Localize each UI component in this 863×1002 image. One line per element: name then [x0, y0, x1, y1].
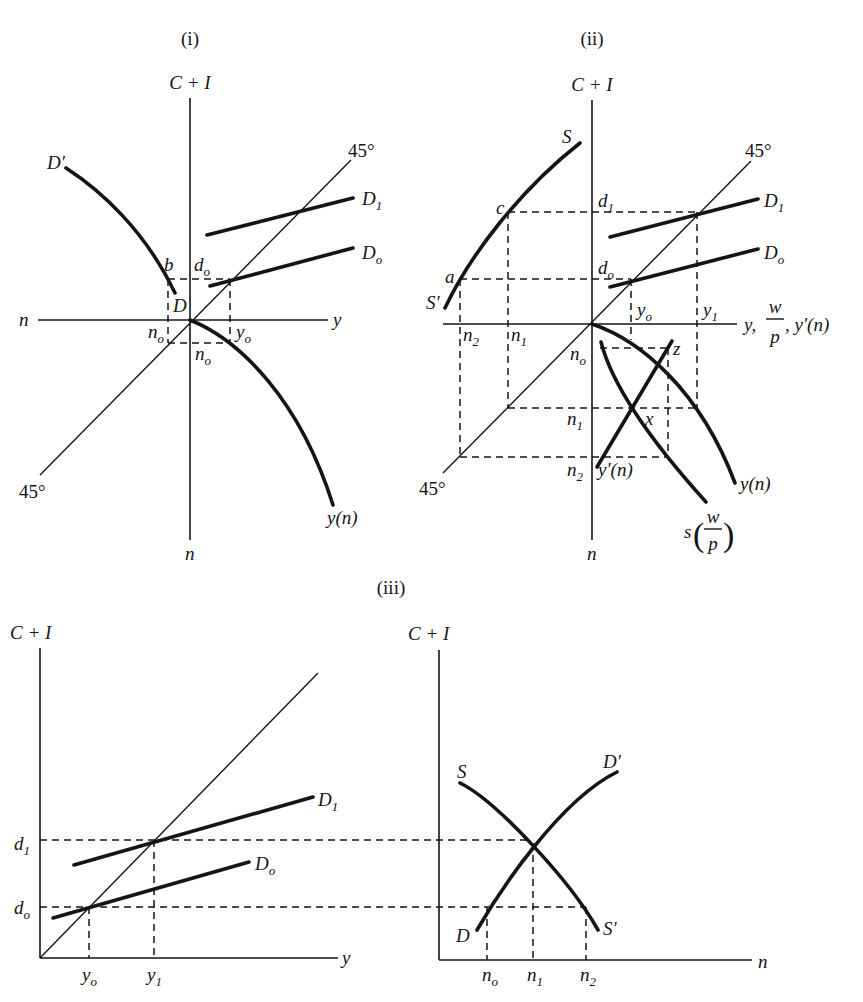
label-main: n [580, 964, 590, 985]
label-main: d [194, 254, 204, 275]
label-main: n [511, 324, 521, 345]
label-45-lower: 45° [419, 478, 446, 499]
label-main: y [635, 299, 646, 320]
panel-ii: (ii) C + I S 45° c d1 D1 Do do a S′ yo y… [419, 28, 829, 564]
curve-s [445, 143, 580, 308]
figure: (i) C + I 45° D′ D1 Do b do D n y no yo … [0, 0, 863, 1002]
axis-label-top: C + I [10, 622, 53, 643]
label-main: n [570, 343, 580, 364]
label-main: y [145, 964, 156, 985]
label-sub: 1 [608, 200, 615, 215]
label-sub: o [204, 264, 211, 279]
label-main: n [567, 459, 577, 480]
label-main: d [14, 897, 24, 918]
label-main: D [361, 188, 376, 209]
label-main: y [80, 964, 91, 985]
axis-label-left: n [19, 309, 29, 330]
label-45-upper: 45° [745, 140, 772, 161]
label-d1: D1 [361, 188, 382, 213]
label-sub: 1 [778, 200, 785, 215]
label-y-prime-of-n: y′(n) [596, 459, 633, 481]
axis-label-tail: , y′(n) [785, 314, 829, 336]
label-y-of-n: y(n) [325, 507, 358, 529]
label-sub: o [90, 974, 97, 989]
axis-label-right: y [331, 309, 342, 330]
label-s-prime: S′ [426, 292, 441, 313]
curve-d-prime [66, 168, 175, 293]
panel-i: (i) C + I 45° D′ D1 Do b do D n y no yo … [19, 28, 383, 564]
tick-d1: d1 [14, 833, 30, 858]
label-d0: Do [254, 853, 276, 878]
label-sub: o [376, 252, 383, 267]
label-s-of-w-over-p: s ( w p ) [684, 506, 734, 554]
label-s: S [562, 126, 572, 147]
panel-iii-right: C + I S D′ D S′ n no n1 n2 [408, 623, 768, 989]
fraction-denominator: p [768, 326, 780, 347]
axis-label-head: y, [742, 314, 756, 335]
label-sub: o [158, 331, 165, 346]
line-45-degree [40, 673, 318, 958]
curve-d1 [610, 199, 758, 237]
fraction-numerator: w [769, 296, 782, 317]
label-point-c: c [496, 197, 505, 218]
label-d: D [455, 925, 470, 946]
label-sub: o [244, 331, 251, 346]
axis-label-bottom: n [185, 543, 195, 564]
axis-label-top: C + I [169, 72, 212, 93]
label-point-d: D [172, 295, 187, 316]
tick-n2-lower: n2 [567, 459, 584, 484]
label-sub: 1 [577, 418, 584, 433]
label-sub: 2 [577, 469, 584, 484]
axis-label-top: C + I [571, 74, 614, 95]
label-sub: o [580, 353, 587, 368]
paren-close: ) [723, 516, 734, 554]
label-point-d0: do [194, 254, 211, 279]
label-main: n [195, 343, 205, 364]
tick-n0-below: no [195, 343, 212, 368]
curve-d1 [207, 198, 353, 235]
label-main: D [763, 190, 778, 211]
label-sub: o [205, 353, 212, 368]
label-d0: Do [763, 242, 785, 267]
label-main: n [567, 408, 577, 429]
label-y-of-n: y(n) [738, 473, 771, 495]
curve-s [460, 783, 598, 930]
label-sub: o [645, 309, 652, 324]
axis-label-bottom: n [587, 543, 597, 564]
tick-y1: y1 [701, 299, 718, 324]
label-main: d [598, 190, 608, 211]
tick-n0-left: no [148, 321, 165, 346]
tick-n0: no [482, 964, 499, 989]
label-main: D [254, 853, 269, 874]
label-main: d [14, 833, 24, 854]
tick-n1-upper: n1 [511, 324, 527, 349]
label-main: y [701, 299, 712, 320]
curve-d0 [210, 248, 353, 286]
curve-d0 [53, 862, 249, 918]
axis-label-right: n [758, 951, 768, 972]
tick-y0: yo [80, 964, 97, 989]
label-main: n [482, 964, 492, 985]
curve-d0 [610, 249, 758, 287]
panel-title: (i) [181, 28, 199, 50]
label-point-a: a [445, 266, 455, 287]
label-sub: 1 [711, 309, 718, 324]
label-main: n [527, 964, 537, 985]
label-sub: o [492, 974, 499, 989]
label-d1: D1 [317, 789, 338, 814]
fraction-denominator: p [706, 533, 718, 554]
label-main: y [234, 321, 245, 342]
panel-title-iii: (iii) [377, 577, 406, 599]
label-sub: o [269, 863, 276, 878]
tick-n1: n1 [527, 964, 543, 989]
tick-y0: yo [234, 321, 251, 346]
tick-n2-upper: n2 [463, 324, 480, 349]
curve-d1 [74, 797, 313, 865]
label-d1: D1 [763, 190, 784, 215]
label-s-main: s [684, 521, 691, 542]
tick-n1-lower: n1 [567, 408, 583, 433]
label-main: n [148, 321, 158, 342]
panel-title: (ii) [580, 28, 603, 50]
label-d-prime: D′ [46, 152, 66, 173]
label-main: n [463, 324, 473, 345]
